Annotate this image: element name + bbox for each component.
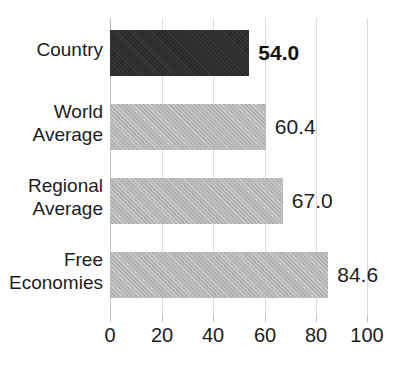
x-tick-label-40: 40 (202, 324, 224, 347)
x-axis: 0 20 40 60 80 100 (110, 315, 368, 369)
chart-title-clipped (0, 0, 407, 16)
category-label-regional-average: RegionalAverage (0, 174, 103, 220)
category-label-line1: Regional (28, 175, 103, 196)
category-label-world-average: WorldAverage (0, 100, 103, 146)
x-tick-label-80: 80 (305, 324, 327, 347)
x-tick-mark-60 (265, 315, 266, 322)
x-tick-label-20: 20 (151, 324, 173, 347)
category-label-country: Country (0, 38, 103, 61)
x-tick-mark-40 (213, 315, 214, 322)
category-label-line1: World (54, 101, 103, 122)
category-label-line2: Average (33, 198, 103, 219)
value-label-country: 54.0 (258, 30, 299, 76)
category-label-free-economies: FreeEconomies (0, 248, 103, 294)
bar-free-economies (110, 252, 328, 298)
value-label-regional-average: 67.0 (292, 178, 333, 224)
category-label-line2: Average (33, 124, 103, 145)
x-tick-mark-80 (316, 315, 317, 322)
x-tick-mark-100 (367, 315, 368, 322)
bar-world-average (110, 104, 266, 150)
x-tick-mark-0 (110, 315, 111, 322)
x-tick-label-60: 60 (254, 324, 276, 347)
x-tick-label-0: 0 (104, 324, 115, 347)
category-labels: Country WorldAverage RegionalAverage Fre… (0, 18, 103, 315)
value-label-world-average: 60.4 (275, 104, 316, 150)
value-label-free-economies: 84.6 (337, 252, 378, 298)
plot-area (110, 18, 368, 315)
x-tick-label-100: 100 (350, 324, 383, 347)
category-label-line1: Free (64, 249, 103, 270)
bar-chart: Country WorldAverage RegionalAverage Fre… (0, 0, 407, 369)
bar-regional-average (110, 178, 283, 224)
category-label-line2: Economies (9, 272, 103, 293)
bar-country (110, 30, 249, 76)
x-tick-mark-20 (162, 315, 163, 322)
category-label-line1: Country (36, 39, 103, 60)
